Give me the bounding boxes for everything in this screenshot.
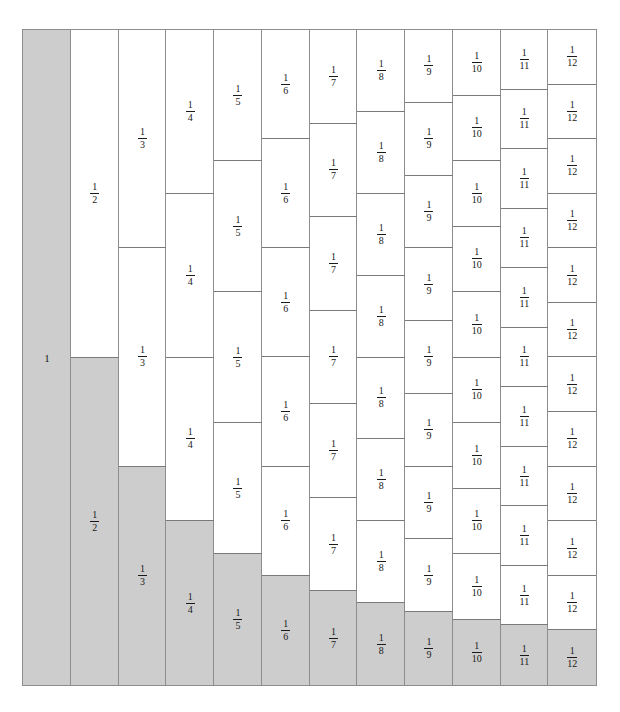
fraction-numerator: 1 [329,345,338,357]
cell-10-3: 110 [453,161,501,227]
fraction-label: 12 [90,510,99,533]
fraction-label: 110 [472,313,482,336]
fraction-label: 17 [329,65,338,88]
harmonic-column-12: 112112112112112112112112112112112112 [548,30,596,685]
cell-5-2: 15 [214,161,262,292]
cell-11-9: 111 [501,506,549,566]
fraction-denominator: 5 [233,358,242,369]
fraction-label: 15 [233,608,242,631]
cell-9-1: 19 [405,30,453,103]
fraction-label: 112 [567,318,577,341]
cell-3-2: 13 [119,248,167,466]
fraction-label: 112 [567,646,577,669]
fraction-numerator: 1 [377,468,386,480]
cell-1-1: 1 [23,30,71,685]
cell-11-10: 111 [501,566,549,626]
fraction-denominator: 11 [520,417,530,428]
fraction-denominator: 9 [424,212,433,223]
fraction-denominator: 9 [424,139,433,150]
fraction-numerator: 1 [424,273,433,285]
cells-layer-9: 191919191919191919 [405,30,453,685]
fraction-denominator: 10 [472,653,482,664]
fraction-numerator: 1 [472,641,482,653]
fraction-denominator: 7 [329,170,338,181]
fraction-label: 111 [520,644,530,667]
fraction-numerator: 1 [377,550,386,562]
fraction-denominator: 12 [567,57,577,68]
fraction-numerator: 1 [520,226,530,238]
fraction-denominator: 10 [472,259,482,270]
cell-10-1: 110 [453,30,501,96]
cell-9-9: 19 [405,612,453,685]
fraction-numerator: 1 [233,608,242,620]
cell-5-3: 15 [214,292,262,423]
fraction-label: 112 [567,209,577,232]
cell-12-7: 112 [548,358,596,413]
fraction-numerator: 1 [90,510,99,522]
fraction-denominator: 6 [281,194,290,205]
fraction-numerator: 1 [567,373,577,385]
fraction-label: 110 [472,575,482,598]
fraction-numerator: 1 [138,127,147,139]
cell-11-11: 111 [501,625,549,685]
fraction-label: 15 [233,84,242,107]
cells-layer-7: 17171717171717 [310,30,358,685]
fraction-numerator: 1 [281,73,290,85]
fraction-numerator: 1 [233,346,242,358]
fraction-denominator: 11 [520,357,530,368]
fraction-denominator: 9 [424,503,433,514]
fraction-numerator: 1 [520,48,530,60]
fraction-denominator: 11 [520,60,530,71]
fraction-label: 14 [186,264,195,287]
fraction-label: 111 [520,345,530,368]
fraction-denominator: 9 [424,649,433,660]
cells-layer-4: 14141414 [166,30,214,685]
fraction-denominator: 7 [329,357,338,368]
fraction-denominator: 6 [281,412,290,423]
cell-9-3: 19 [405,176,453,249]
fraction-label: 16 [281,73,290,96]
cell-2-1: 12 [71,30,119,358]
fraction-denominator: 4 [186,112,195,123]
fraction-numerator: 1 [472,575,482,587]
fraction-numerator: 1 [520,107,530,119]
fraction-label: 111 [520,286,530,309]
cell-2-2: 12 [71,358,119,686]
fraction-denominator: 5 [233,227,242,238]
fraction-label: 110 [472,182,482,205]
fraction-numerator: 1 [329,533,338,545]
fraction-numerator: 1 [329,65,338,77]
fraction-denominator: 5 [233,620,242,631]
cell-8-5: 18 [357,358,405,440]
fraction-numerator: 1 [520,524,530,536]
cells-layer-12: 112112112112112112112112112112112112 [548,30,596,685]
fraction-label: 17 [329,439,338,462]
fraction-label: 111 [520,584,530,607]
whole-label-1: 1 [44,352,50,364]
fraction-label: 17 [329,158,338,181]
fraction-label: 14 [186,592,195,615]
fraction-numerator: 1 [424,491,433,503]
cell-9-2: 19 [405,103,453,176]
fraction-denominator: 3 [138,139,147,150]
fraction-denominator: 11 [520,536,530,547]
fraction-label: 111 [520,405,530,428]
fraction-denominator: 11 [520,119,530,130]
cell-4-4: 14 [166,521,214,685]
fraction-numerator: 1 [377,141,386,153]
fraction-numerator: 1 [329,158,338,170]
fraction-numerator: 1 [472,116,482,128]
cell-12-1: 112 [548,30,596,85]
cell-6-2: 16 [262,139,310,248]
harmonic-column-1: 1 [23,30,71,685]
fraction-label: 17 [329,627,338,650]
fraction-numerator: 1 [567,537,577,549]
cells-layer-11: 111111111111111111111111111111111 [501,30,549,685]
fraction-denominator: 8 [377,235,386,246]
cells-layer-10: 110110110110110110110110110110 [453,30,501,685]
fraction-label: 112 [567,482,577,505]
cell-10-7: 110 [453,423,501,489]
fraction-numerator: 1 [281,182,290,194]
fraction-label: 110 [472,509,482,532]
fraction-numerator: 1 [520,167,530,179]
